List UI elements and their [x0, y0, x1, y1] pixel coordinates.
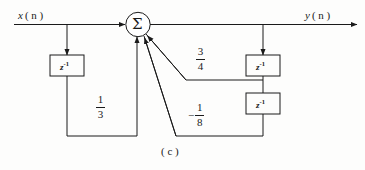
figure-caption: ( c ) — [161, 145, 179, 157]
input-signal-label: x( n ) — [18, 10, 43, 21]
coefficient-feedforward-1-3: 1 3 — [96, 94, 105, 120]
coefficient-numerator: 1 — [196, 102, 204, 114]
output-signal-label: y( n ) — [305, 10, 330, 21]
coefficient-denominator: 4 — [197, 61, 205, 73]
figure-canvas: Σ x( n ) y( n ) z-1 z-1 z-1 1 3 3 4 − 1 … — [0, 0, 365, 170]
coefficient-denominator: 8 — [196, 117, 204, 129]
summing-junction-sigma: Σ — [132, 17, 143, 32]
z-inverse-feedback-delay-1-label: z-1 — [256, 61, 265, 72]
input-signal-variable: x — [18, 9, 23, 21]
coefficient-sign: − — [188, 110, 194, 121]
feedback-minus-1-8-branch-arrow — [145, 38, 176, 136]
coefficient-fraction: 1 8 — [195, 102, 204, 128]
output-signal-variable: y — [305, 9, 310, 21]
coefficient-numerator: 3 — [197, 46, 205, 58]
coefficient-feedback-3-4: 3 4 — [196, 46, 205, 72]
delay-exponent: -1 — [260, 98, 265, 105]
delay-exponent: -1 — [64, 60, 69, 67]
input-signal-argument: ( n ) — [25, 9, 43, 21]
feedback-3-4-branch-arrow — [148, 36, 187, 80]
coefficient-numerator: 1 — [97, 94, 105, 106]
coefficient-denominator: 3 — [97, 109, 105, 121]
output-signal-argument: ( n ) — [312, 9, 330, 21]
signal-flow-diagram — [0, 0, 365, 170]
delay-exponent: -1 — [260, 60, 265, 67]
z-inverse-feedback-delay-2-label: z-1 — [256, 99, 265, 110]
z-inverse-input-delay-label: z-1 — [60, 61, 69, 72]
coefficient-feedback-minus-1-8: − 1 8 — [188, 102, 204, 128]
